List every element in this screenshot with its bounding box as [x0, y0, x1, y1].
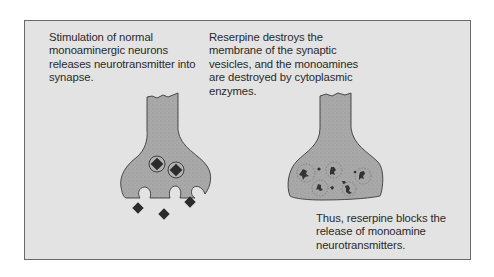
- normal-neuron-terminal: [121, 93, 211, 220]
- reserpine-neuron-terminal: [288, 93, 383, 200]
- axon-terminal-shape: [121, 93, 211, 198]
- neurotransmitter-molecule: [158, 208, 169, 219]
- synaptic-vesicle: [149, 156, 165, 172]
- synaptic-vesicle: [168, 162, 184, 178]
- neurotransmitter-molecule: [132, 202, 143, 213]
- neuron-illustrations: [0, 0, 494, 277]
- axon-terminal-shape: [288, 93, 383, 200]
